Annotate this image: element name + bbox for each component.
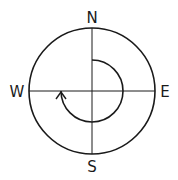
label-north: N — [86, 9, 97, 27]
label-west: W — [10, 83, 25, 101]
label-south: S — [87, 158, 97, 176]
label-east: E — [160, 83, 169, 101]
compass-diagram: N E S W — [0, 0, 178, 180]
